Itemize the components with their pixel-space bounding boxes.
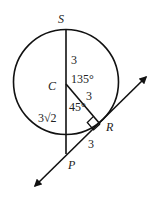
point-label-R: R — [105, 120, 114, 134]
length-label-SC: 3 — [71, 53, 77, 67]
point-label-P: P — [67, 158, 76, 172]
geometry-diagram: S C R P 3 135° 3 45° 3√2 3 — [0, 0, 157, 198]
point-label-S: S — [58, 12, 64, 26]
length-label-RP: 3 — [88, 137, 94, 151]
length-label-CR: 3 — [86, 89, 92, 103]
angle-label-SCR: 135° — [71, 72, 94, 86]
point-label-C: C — [48, 79, 57, 93]
angle-label-RCP: 45° — [69, 100, 86, 114]
length-label-CP: 3√2 — [38, 111, 57, 125]
